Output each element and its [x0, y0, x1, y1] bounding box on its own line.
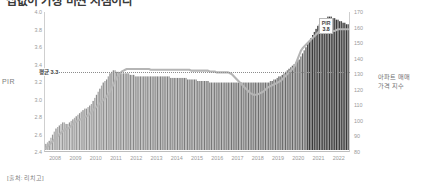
bar [99, 89, 100, 150]
bar [148, 76, 149, 150]
bar [136, 76, 137, 150]
bar [238, 83, 239, 150]
bar [219, 83, 220, 150]
bar [233, 83, 234, 150]
bar [65, 124, 66, 150]
right-axis-tick: 160 [354, 25, 376, 31]
bar [214, 83, 215, 150]
left-axis-tick: 3.2 [22, 79, 42, 85]
plot-inner [45, 12, 349, 151]
bar [119, 73, 120, 150]
bar [189, 79, 190, 150]
bar [293, 64, 294, 150]
bar [292, 66, 293, 150]
bar [221, 83, 222, 150]
bar [320, 23, 321, 150]
bar [211, 83, 212, 150]
bar [190, 79, 191, 150]
bar [125, 73, 126, 150]
bar [229, 83, 230, 150]
chart-canvas [45, 12, 349, 150]
bar [126, 73, 127, 150]
bar [310, 38, 311, 150]
bar [270, 81, 271, 150]
bar [150, 76, 151, 150]
peak-callout-value: 3.8 [322, 26, 331, 32]
bar [312, 35, 313, 150]
bar [197, 81, 198, 150]
bar [64, 122, 65, 150]
source-note: [출처: 리치고] [7, 173, 44, 182]
bar [174, 78, 175, 150]
bar [62, 122, 63, 150]
bar [329, 17, 330, 150]
bar [138, 76, 139, 150]
bar [152, 76, 153, 150]
left-axis-tick: 2.6 [22, 132, 42, 138]
bar [184, 78, 185, 150]
bar [106, 79, 107, 150]
bar [217, 83, 218, 150]
bar [334, 18, 335, 150]
bar [339, 21, 340, 150]
bar [282, 75, 283, 150]
right-axis-tick: 140 [354, 56, 376, 62]
bar [133, 75, 134, 150]
bar [111, 72, 112, 150]
bar [300, 56, 301, 150]
bar [315, 29, 316, 150]
average-reference-line [44, 72, 350, 73]
bar [121, 73, 122, 150]
bar [302, 53, 303, 150]
bar [141, 76, 142, 150]
bar [185, 78, 186, 150]
bar [81, 112, 82, 150]
bar [337, 20, 338, 150]
bar [204, 81, 205, 150]
bar [268, 83, 269, 150]
bar [163, 76, 164, 150]
average-label: 평균 3.3 [38, 68, 59, 76]
bar [275, 79, 276, 150]
bar [322, 21, 323, 150]
bar [226, 83, 227, 150]
bar [280, 76, 281, 150]
bar [158, 76, 159, 150]
bar [342, 23, 343, 150]
bar [143, 76, 144, 150]
left-axis-tick: 3.4 [22, 62, 42, 68]
bar [116, 72, 117, 150]
bar [273, 79, 274, 150]
bar [101, 86, 102, 150]
bar [135, 76, 136, 150]
bar [290, 67, 291, 150]
bar [256, 83, 257, 150]
bar [165, 76, 166, 150]
bar [246, 83, 247, 150]
bar [336, 20, 337, 150]
right-axis-title: 아파트 매매 가격 지수 [378, 72, 423, 90]
bar [195, 79, 196, 150]
bar [59, 125, 60, 150]
bar [84, 109, 85, 150]
bar [228, 83, 229, 150]
bar [172, 78, 173, 150]
left-axis-tick: 2.8 [22, 114, 42, 120]
bar [170, 78, 171, 150]
bar [326, 18, 327, 150]
bar [201, 81, 202, 150]
right-axis-tick: 80 [354, 149, 376, 155]
bar [108, 76, 109, 150]
bar [317, 26, 318, 150]
right-axis-tick: 120 [354, 87, 376, 93]
bar [123, 73, 124, 150]
bar [94, 98, 95, 150]
bar [131, 75, 132, 150]
right-axis-tick: 100 [354, 118, 376, 124]
bar [346, 24, 347, 150]
left-axis-tick: 3.8 [22, 27, 42, 33]
bar [86, 109, 87, 150]
bar [180, 78, 181, 150]
bar [224, 83, 225, 150]
bar [87, 107, 88, 150]
